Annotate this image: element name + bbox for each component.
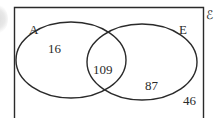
set-a-label: A: [29, 23, 38, 36]
region-a-and-e-value: 109: [93, 63, 113, 76]
region-a-only-value: 16: [48, 42, 61, 55]
region-neither-value: 46: [183, 94, 196, 107]
universal-set-symbol: ℰ: [206, 9, 213, 21]
set-e-label: E: [179, 23, 187, 36]
region-e-only-value: 87: [145, 79, 158, 92]
venn-diagram: ℰ A E 16 109 87 46: [0, 0, 220, 118]
